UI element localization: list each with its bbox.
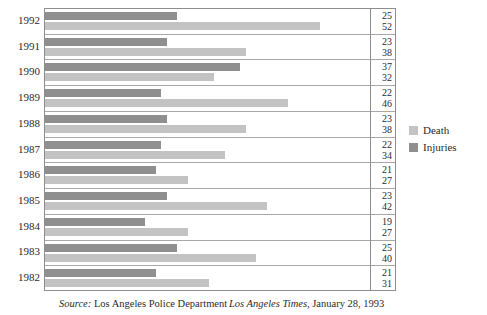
category-label-1989: 1989 bbox=[0, 92, 40, 103]
category-label-1987: 1987 bbox=[0, 144, 40, 155]
bar-row: 2131 bbox=[45, 266, 395, 292]
bar-death bbox=[45, 125, 246, 133]
category-label-1983: 1983 bbox=[0, 246, 40, 257]
bar-death bbox=[45, 176, 188, 184]
category-label-1991: 1991 bbox=[0, 41, 40, 52]
bar-death bbox=[45, 254, 256, 262]
plot-area: 2552233837322246233822342127234219272540… bbox=[44, 8, 396, 291]
category-label-1986: 1986 bbox=[0, 169, 40, 180]
value-column-divider bbox=[370, 9, 371, 290]
value-label-injuries: 23 bbox=[382, 37, 392, 47]
bar-row: 2338 bbox=[45, 35, 395, 61]
bar-group bbox=[45, 112, 370, 137]
value-label-death: 40 bbox=[382, 254, 392, 264]
value-label-death: 38 bbox=[382, 48, 392, 58]
value-label-death: 38 bbox=[382, 125, 392, 135]
source-label: Source: bbox=[59, 298, 91, 309]
bar-death bbox=[45, 48, 246, 56]
bar-injuries bbox=[45, 38, 167, 46]
credit-publication: Los Angeles Times bbox=[229, 298, 307, 309]
bar-death bbox=[45, 73, 214, 81]
bar-row: 2540 bbox=[45, 241, 395, 267]
value-label-injuries: 21 bbox=[382, 268, 392, 278]
value-label-death: 52 bbox=[382, 22, 392, 32]
row-value-labels: 2342 bbox=[371, 189, 397, 214]
category-label-1988: 1988 bbox=[0, 118, 40, 129]
value-label-injuries: 22 bbox=[382, 88, 392, 98]
row-value-labels: 2131 bbox=[371, 266, 397, 292]
category-label-1984: 1984 bbox=[0, 221, 40, 232]
chart-footer: Source: Los Angeles Police Department Lo… bbox=[44, 298, 487, 312]
bar-death bbox=[45, 279, 209, 287]
value-label-injuries: 23 bbox=[382, 114, 392, 124]
bar-death bbox=[45, 22, 320, 30]
credit-note: Los Angeles Times, January 28, 1993 bbox=[229, 298, 384, 310]
bar-group bbox=[45, 215, 370, 240]
row-value-labels: 2127 bbox=[371, 163, 397, 188]
bar-group bbox=[45, 241, 370, 266]
bar-group bbox=[45, 138, 370, 163]
row-value-labels: 2338 bbox=[371, 35, 397, 60]
bar-death bbox=[45, 202, 267, 210]
legend-label-death: Death bbox=[423, 125, 449, 136]
bar-row: 2127 bbox=[45, 163, 395, 189]
legend-label-injuries: Injuries bbox=[423, 142, 457, 153]
bar-injuries bbox=[45, 115, 167, 123]
credit-date: , January 28, 1993 bbox=[307, 298, 384, 309]
bar-row: 2246 bbox=[45, 86, 395, 112]
value-label-death: 46 bbox=[382, 99, 392, 109]
value-label-injuries: 25 bbox=[382, 11, 392, 21]
source-value: Los Angeles Police Department bbox=[94, 298, 227, 309]
bar-injuries bbox=[45, 89, 161, 97]
row-value-labels: 2338 bbox=[371, 112, 397, 137]
bar-injuries bbox=[45, 166, 156, 174]
bar-group bbox=[45, 266, 370, 292]
row-value-labels: 2552 bbox=[371, 9, 397, 34]
bar-row: 3732 bbox=[45, 60, 395, 86]
bar-group bbox=[45, 9, 370, 34]
bar-injuries bbox=[45, 192, 167, 200]
bar-death bbox=[45, 99, 288, 107]
value-label-death: 34 bbox=[382, 151, 392, 161]
legend-swatch-death bbox=[409, 126, 418, 135]
bar-injuries bbox=[45, 269, 156, 277]
row-value-labels: 2246 bbox=[371, 86, 397, 111]
value-label-injuries: 25 bbox=[382, 243, 392, 253]
value-label-death: 42 bbox=[382, 202, 392, 212]
legend-swatch-injuries bbox=[409, 143, 418, 152]
value-label-injuries: 22 bbox=[382, 140, 392, 150]
bar-row: 2338 bbox=[45, 112, 395, 138]
value-label-injuries: 21 bbox=[382, 165, 392, 175]
bar-group bbox=[45, 60, 370, 85]
value-label-death: 27 bbox=[382, 176, 392, 186]
bar-group bbox=[45, 189, 370, 214]
bar-group bbox=[45, 35, 370, 60]
bar-row: 2234 bbox=[45, 138, 395, 164]
bar-row: 2342 bbox=[45, 189, 395, 215]
category-label-1990: 1990 bbox=[0, 66, 40, 77]
bar-death bbox=[45, 228, 188, 236]
bar-injuries bbox=[45, 218, 145, 226]
value-label-death: 27 bbox=[382, 228, 392, 238]
value-label-injuries: 23 bbox=[382, 191, 392, 201]
legend-item-death: Death bbox=[409, 123, 457, 137]
category-label-1985: 1985 bbox=[0, 195, 40, 206]
bar-injuries bbox=[45, 141, 161, 149]
bar-group bbox=[45, 163, 370, 188]
row-value-labels: 1927 bbox=[371, 215, 397, 240]
row-value-labels: 2234 bbox=[371, 138, 397, 163]
bar-group bbox=[45, 86, 370, 111]
bar-death bbox=[45, 151, 225, 159]
value-label-death: 31 bbox=[382, 279, 392, 289]
bar-row: 1927 bbox=[45, 215, 395, 241]
source-note: Source: Los Angeles Police Department bbox=[59, 298, 227, 310]
chart-legend: DeathInjuries bbox=[409, 123, 457, 157]
bar-injuries bbox=[45, 12, 177, 20]
row-value-labels: 2540 bbox=[371, 241, 397, 266]
category-label-1992: 1992 bbox=[0, 15, 40, 26]
value-label-death: 32 bbox=[382, 73, 392, 83]
category-label-1982: 1982 bbox=[0, 272, 40, 283]
bar-chart-figure: 1992199119901989198819871986198519841983… bbox=[0, 0, 487, 315]
legend-item-injuries: Injuries bbox=[409, 140, 457, 154]
value-label-injuries: 19 bbox=[382, 217, 392, 227]
